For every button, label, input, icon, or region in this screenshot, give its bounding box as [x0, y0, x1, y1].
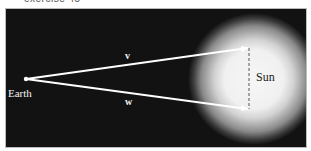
vector-w-label: w: [125, 96, 132, 107]
sun-glow: [188, 13, 307, 145]
vector-v-label: v: [125, 50, 130, 61]
sun-label: Sun: [256, 70, 275, 85]
earth-sun-diagram: Earth v w Sun: [5, 8, 307, 148]
exercise-caption: exercise 45: [24, 0, 81, 4]
earth-dot: [24, 77, 28, 81]
earth-label: Earth: [8, 87, 32, 99]
